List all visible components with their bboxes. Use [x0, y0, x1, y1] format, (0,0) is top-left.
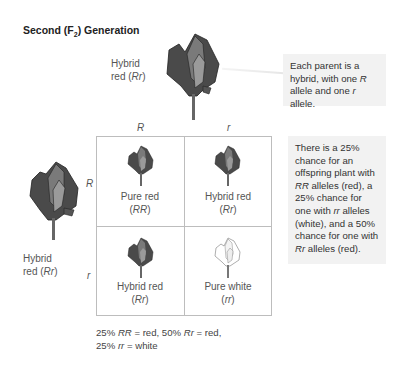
ratio-summary: 25% RR = red, 50% Rr = red, 25% rr = whi…: [96, 326, 221, 352]
top-parent-flower-icon: [163, 30, 227, 120]
cell-rr-white-flower-icon: [213, 236, 243, 278]
top-parent-label: Hybrid red (Rr): [111, 57, 145, 83]
cell-rr-hybrid-label: Hybrid red (Rr): [184, 190, 272, 216]
diagram-title: Second (F2) Generation: [23, 24, 140, 38]
offspring-callout: There is a 25% chance for an offspring p…: [288, 136, 386, 264]
parent-callout: Each parent is a hybrid, with one R alle…: [283, 54, 386, 106]
cell-rr-hybrid-2-label: Hybrid red (Rr): [96, 280, 184, 306]
cell-rr-flower-icon: [126, 144, 156, 186]
parent-callout-connector: [222, 68, 284, 74]
row-allele-1: R: [86, 178, 93, 189]
column-allele-2: r: [227, 122, 230, 133]
left-parent-label: Hybrid red (Rr): [23, 252, 57, 278]
column-allele-1: R: [137, 122, 144, 133]
cell-rr-white-label: Pure white (rr): [184, 280, 272, 306]
cell-rr-hybrid-flower-icon: [213, 144, 243, 186]
cell-rr-hybrid-2-flower-icon: [126, 236, 156, 278]
left-parent-flower-icon: [20, 150, 84, 240]
cell-rr-label: Pure red (RR): [96, 190, 184, 216]
punnett-horizontal-divider: [96, 226, 272, 227]
row-allele-2: r: [87, 270, 90, 281]
